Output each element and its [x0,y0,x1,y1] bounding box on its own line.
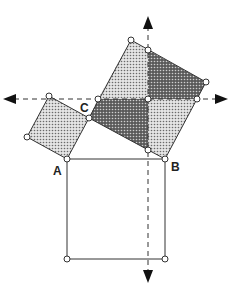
vertex-horizontal-left [95,96,101,102]
vertex-bottom-right [162,256,168,262]
vertex-big-right [203,79,209,85]
vertex-B [162,156,168,162]
arrow-down-icon [143,270,153,283]
vertex-A [64,156,70,162]
arrow-up-icon [143,16,153,29]
pythagoras-diagram: A B C [0,0,241,290]
vertex-C [86,115,92,121]
arrow-right-icon [215,94,228,104]
arrow-left-icon [3,94,16,104]
label-B: B [171,160,180,174]
vertex-vertical-bottom [145,147,151,153]
vertex-small-left [24,134,30,140]
big-square-piece-bottom-right [148,99,197,159]
vertex-small-top [46,93,52,99]
vertex-horizontal-right [194,96,200,102]
big-square-piece-top-left [98,40,148,99]
vertex-vertical-top [145,47,151,53]
vertex-big-top [128,37,134,43]
square-on-AB [67,159,165,259]
big-square-piece-top-right [148,50,206,99]
label-A: A [53,164,62,178]
vertex-center [145,96,151,102]
vertex-bottom-left [64,256,70,262]
big-square-piece-bottom-left [89,99,148,150]
label-C: C [80,101,89,115]
